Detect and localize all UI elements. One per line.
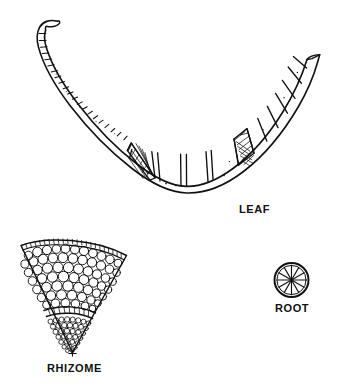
rhizome-label: RHIZOME xyxy=(47,363,102,374)
leaf-chamber-partitions xyxy=(127,57,306,187)
rhizome-apex-tick xyxy=(69,351,76,357)
figure-drawing xyxy=(0,0,339,387)
leaf-drawing xyxy=(37,21,319,194)
root-centre-dot xyxy=(290,279,293,282)
leaf-tip-hook xyxy=(45,21,59,30)
root-drawing xyxy=(275,263,309,297)
rhizome-drawing xyxy=(21,239,127,356)
leaf-left-arm-dots xyxy=(44,36,115,134)
root-label: ROOT xyxy=(275,303,309,314)
leaf-label: LEAF xyxy=(239,204,270,215)
rhizome-cortex-cells xyxy=(21,244,122,312)
leaf-inner-margin xyxy=(45,30,320,186)
leaf-left-arm-cell-walls xyxy=(39,33,127,139)
botanical-figure: LEAF RHIZOME ROOT xyxy=(0,0,339,387)
leaf-bottom-margin-dots xyxy=(147,72,298,187)
